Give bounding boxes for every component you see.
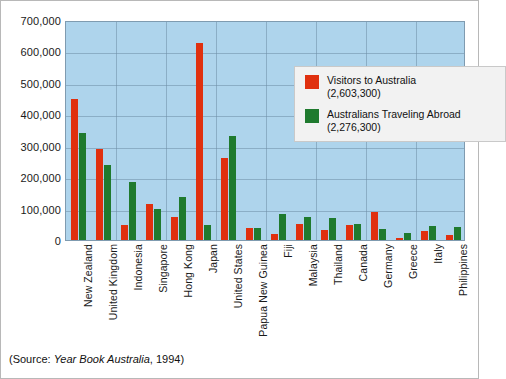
bar <box>329 218 336 240</box>
source-caption: (Source: Year Book Australia, 1994) <box>9 353 184 365</box>
bar <box>146 204 153 240</box>
bar <box>171 217 178 240</box>
bar <box>404 233 411 240</box>
bar <box>154 209 161 240</box>
bar-group <box>116 22 141 240</box>
bar <box>71 99 78 240</box>
bar <box>221 158 228 240</box>
bar <box>179 197 186 240</box>
bar <box>79 133 86 240</box>
x-axis-label: Canada <box>357 244 369 281</box>
x-axis-label: Malaysia <box>307 244 319 286</box>
x-axis-label: Japan <box>207 244 219 273</box>
y-axis-tick: 600,000 <box>21 46 61 58</box>
source-prefix: (Source: <box>9 353 54 365</box>
x-axis-label: Papua New Guinea <box>257 244 269 337</box>
legend-label-visitors: Visitors to Australia (2,603,300) <box>327 74 416 99</box>
legend: Visitors to Australia (2,603,300) Austra… <box>294 66 506 142</box>
bar-group <box>266 22 291 240</box>
y-axis-tick: 700,000 <box>21 15 61 27</box>
source-suffix: , 1994) <box>150 353 184 365</box>
bar <box>304 217 311 240</box>
bar-group <box>66 22 91 240</box>
bar <box>396 238 403 241</box>
bar <box>354 224 361 240</box>
bar <box>371 212 378 240</box>
bar <box>296 224 303 240</box>
bar-group <box>141 22 166 240</box>
bar <box>446 235 453 240</box>
bar <box>229 136 236 240</box>
legend-item: Australians Traveling Abroad (2,276,300) <box>305 108 497 133</box>
y-axis: 0100,000200,000300,000400,000500,000600,… <box>1 21 61 241</box>
y-axis-tick: 500,000 <box>21 78 61 90</box>
bar <box>429 226 436 240</box>
bar-group <box>91 22 116 240</box>
x-axis-label: Hong Kong <box>182 244 194 297</box>
x-axis-labels: New ZealandUnited KingdomIndonesiaSingap… <box>65 244 465 339</box>
bar <box>104 165 111 240</box>
bar <box>346 225 353 240</box>
x-axis-label: Thailand <box>332 244 344 285</box>
bar <box>279 214 286 240</box>
x-axis-label: Greece <box>407 244 419 279</box>
legend-swatch-green <box>305 109 319 123</box>
y-axis-tick: 200,000 <box>21 172 61 184</box>
bar-group <box>241 22 266 240</box>
x-axis-label: Philippines <box>457 244 469 296</box>
bar <box>421 231 428 240</box>
bar <box>246 228 253 240</box>
bar <box>254 228 261 240</box>
x-axis-label: Fiji <box>282 244 294 258</box>
bar <box>196 43 203 240</box>
bar <box>379 229 386 240</box>
x-axis-label: United States <box>232 244 244 308</box>
bar <box>204 225 211 240</box>
bar-group <box>166 22 191 240</box>
bar-group <box>216 22 241 240</box>
legend-swatch-red <box>305 75 319 89</box>
x-axis-label: Germany <box>382 244 394 288</box>
y-axis-tick: 100,000 <box>21 204 61 216</box>
x-axis-label: Singapore <box>157 244 169 293</box>
bar <box>454 227 461 240</box>
bar <box>321 230 328 240</box>
bar <box>121 225 128 240</box>
x-axis-label: Indonesia <box>132 244 144 290</box>
legend-label-travelers: Australians Traveling Abroad (2,276,300) <box>327 108 461 133</box>
bar-group <box>191 22 216 240</box>
bar <box>129 182 136 240</box>
bar <box>271 234 278 240</box>
x-axis-label: New Zealand <box>82 244 94 307</box>
legend-item: Visitors to Australia (2,603,300) <box>305 74 497 99</box>
x-axis-label: Italy <box>432 244 444 264</box>
y-axis-tick: 300,000 <box>21 141 61 153</box>
x-axis-label: United Kingdom <box>107 244 119 320</box>
y-axis-tick: 400,000 <box>21 109 61 121</box>
bar <box>96 149 103 240</box>
source-publication: Year Book Australia <box>54 353 150 365</box>
y-axis-tick: 0 <box>55 235 61 247</box>
plot-area: Visitors to Australia (2,603,300) Austra… <box>65 21 465 241</box>
